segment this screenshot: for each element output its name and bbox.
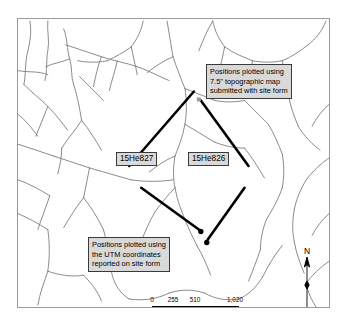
scalebar-tick-255: 255 <box>163 296 183 303</box>
scalebar-tick-1020: 1,020 <box>222 296 248 303</box>
site-label-15he826-text: 15He826 <box>192 154 225 163</box>
site-point-topo <box>197 97 201 101</box>
topo-callout-line-1: Positions plotted using <box>210 67 288 77</box>
scalebar-segment-2 <box>173 306 195 308</box>
utm-position-markers <box>198 229 209 245</box>
site-position-overlay <box>18 19 329 307</box>
topo-callout: Positions plotted using 7.5" topographic… <box>206 64 292 99</box>
site-label-15he827-text: 15He827 <box>120 154 153 163</box>
scalebar-segment-1 <box>152 306 173 308</box>
scalebar-tick-0: 0 <box>145 296 159 303</box>
topo-callout-line-2: 7.5" topographic map <box>210 77 288 87</box>
scalebar-tick-510: 510 <box>185 296 205 303</box>
site-label-15he826: 15He826 <box>188 152 229 166</box>
utm-callout: Positions plotted using the UTM coordina… <box>88 237 170 272</box>
topo-callout-line-3: submitted with site form <box>210 86 288 96</box>
site-point-826-utm <box>204 240 209 245</box>
scalebar-units: Meters <box>252 307 272 309</box>
utm-callout-line-2: the UTM coordinates <box>92 250 166 260</box>
leader-line-826-lower <box>208 188 245 240</box>
site-point-827-utm <box>198 229 203 234</box>
site-label-15he827: 15He827 <box>116 152 157 166</box>
scalebar: 0 255 510 1,020 Meters <box>151 296 281 308</box>
utm-callout-line-1: Positions plotted using <box>92 240 166 250</box>
site-location-map: Positions plotted using 7.5" topographic… <box>0 0 348 325</box>
topo-position-marker <box>197 97 201 101</box>
map-frame: Positions plotted using 7.5" topographic… <box>17 18 330 308</box>
leader-line-827-lower <box>141 188 199 230</box>
scalebar-segment-3 <box>195 306 239 308</box>
utm-callout-line-3: reported on site form <box>92 259 166 269</box>
north-arrow-icon <box>294 247 320 308</box>
